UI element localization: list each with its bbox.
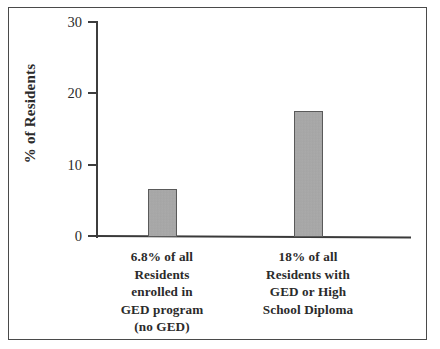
y-axis-tick-label: 30 xyxy=(46,14,82,31)
y-axis-tick-mark xyxy=(88,92,96,94)
category-label-line: GED program xyxy=(87,301,237,319)
category-label-line: enrolled in xyxy=(87,283,237,301)
category-label-line: 18% of all xyxy=(233,248,383,266)
y-axis-tick-label: 0 xyxy=(46,228,82,245)
category-label-line: (no GED) xyxy=(87,318,237,336)
plot-area xyxy=(96,22,410,237)
category-label: 6.8% of allResidentsenrolled inGED progr… xyxy=(87,248,237,336)
category-label-line: School Diploma xyxy=(233,301,383,319)
category-label-line: Residents xyxy=(87,266,237,284)
category-label-line: Residents with xyxy=(233,266,383,284)
category-label-line: 6.8% of all xyxy=(87,248,237,266)
bar xyxy=(294,111,323,237)
y-axis-tick-mark xyxy=(88,164,96,166)
category-label-line: GED or High xyxy=(233,283,383,301)
bar xyxy=(148,189,177,238)
chart-figure: % of Residents 0102030 6.8% of allReside… xyxy=(0,0,440,349)
y-axis-tick-label: 20 xyxy=(46,85,82,102)
y-axis-tick-label: 10 xyxy=(46,156,82,173)
y-axis-tick-mark xyxy=(88,21,96,23)
category-label: 18% of allResidents withGED or HighSchoo… xyxy=(233,248,383,318)
